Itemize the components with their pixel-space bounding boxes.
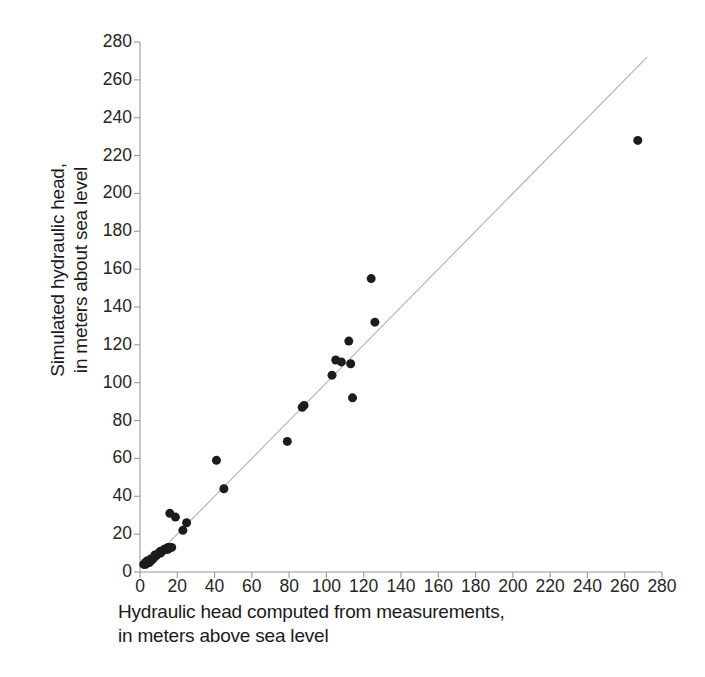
data-point [182,518,191,527]
y-axis-tick-label: 220 [86,147,132,165]
data-point [344,337,353,346]
y-axis-tick-label: 280 [86,33,132,51]
data-point [348,393,357,402]
x-axis-label: Hydraulic head computed from measurement… [118,600,678,648]
y-axis-tick-label: 40 [86,487,132,505]
y-axis-tick-label: 260 [86,71,132,89]
identity-reference-line [144,57,647,568]
data-point [633,136,642,145]
y-axis-tick-labels: 020406080100120140160180200220240260280 [78,42,132,572]
data-point [300,401,309,410]
y-axis-tick-label: 140 [86,298,132,316]
x-axis-tick-label: 280 [639,578,685,596]
data-point [212,456,221,465]
y-axis-tick-label: 100 [86,374,132,392]
data-point [283,437,292,446]
y-axis-tick-label: 160 [86,260,132,278]
data-point [219,484,228,493]
y-axis-tick-label: 60 [86,449,132,467]
y-axis-tick-label: 20 [86,525,132,543]
data-points-group [139,136,642,569]
y-axis-tick-label: 200 [86,184,132,202]
y-axis-label-line-1: Simulated hydraulic head, [46,163,69,377]
data-point [346,359,355,368]
y-axis-tick-label: 80 [86,412,132,430]
plot-svg [140,42,662,572]
data-point [367,274,376,283]
data-point [167,543,176,552]
y-axis-tick-label: 180 [86,222,132,240]
data-point [370,318,379,327]
x-axis-label-line-1: Hydraulic head computed from measurement… [118,600,678,624]
data-point [328,371,337,380]
data-point [337,357,346,366]
plot-area [140,42,662,572]
y-axis-tick-label: 120 [86,336,132,354]
data-point [171,513,180,522]
x-axis-label-line-2: in meters above sea level [118,624,678,648]
y-axis-tick-label: 240 [86,109,132,127]
scatter-chart-figure: Simulated hydraulic head, in meters abou… [0,0,705,677]
reference-line-1to1 [144,57,647,568]
